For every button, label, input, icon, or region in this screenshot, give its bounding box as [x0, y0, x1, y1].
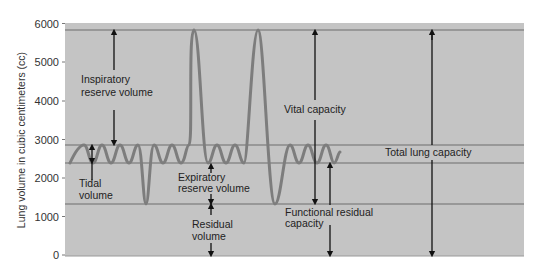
label-vital-capacity: Vital capacity	[284, 103, 346, 115]
label-residual-volume: volume	[192, 230, 226, 242]
label-inspiratory-reserve-volume: reserve volume	[81, 86, 153, 98]
label-inspiratory-reserve-volume: Inspiratory	[81, 73, 131, 85]
y-axis: 0 1000 2000 3000 4000 5000 6000 Lung vol…	[15, 18, 65, 262]
y-tick-label: 4000	[35, 95, 59, 107]
y-axis-title: Lung volume in cubic centimeters (cc)	[15, 52, 27, 228]
label-total-lung-capacity: Total lung capacity	[385, 146, 472, 158]
y-tick-label: 5000	[35, 56, 59, 68]
y-tick-label: 2000	[35, 172, 59, 184]
y-tick-label: 0	[53, 249, 59, 261]
label-tidal-volume: volume	[79, 189, 113, 201]
label-expiratory-reserve-volume: reserve volume	[178, 182, 250, 194]
label-tidal-volume: Tidal	[79, 177, 101, 189]
y-tick-label: 3000	[35, 134, 59, 146]
label-residual-volume: Residual	[192, 218, 233, 230]
spirogram-chart: 0 1000 2000 3000 4000 5000 6000 Lung vol…	[0, 0, 542, 275]
label-functional-residual-capacity: capacity	[285, 217, 324, 229]
y-tick-label: 6000	[35, 18, 59, 30]
y-tick-label: 1000	[35, 211, 59, 223]
